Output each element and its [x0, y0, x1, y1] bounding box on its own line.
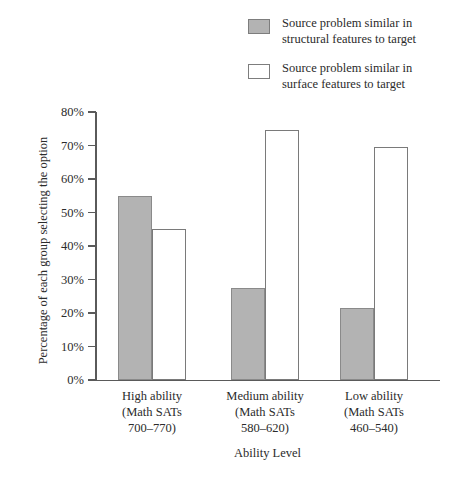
- bar: [152, 229, 186, 380]
- y-axis-tick-label: 10%: [46, 339, 84, 354]
- y-axis-tick-label: 80%: [46, 105, 84, 120]
- x-axis-category-label: Low ability (Math SATs 460–540): [308, 388, 440, 436]
- y-axis-tick: [88, 346, 96, 348]
- bar: [374, 147, 408, 380]
- y-axis-tick: [88, 245, 96, 247]
- y-axis-tick-label: 20%: [46, 306, 84, 321]
- y-axis-tick: [88, 379, 96, 381]
- y-axis-tick: [88, 111, 96, 113]
- bar: [340, 308, 374, 380]
- y-axis-tick: [88, 212, 96, 214]
- bar: [265, 130, 299, 380]
- y-axis-tick-label: 30%: [46, 272, 84, 287]
- y-axis-tick-label: 70%: [46, 138, 84, 153]
- x-axis-title: Ability Level: [95, 446, 440, 461]
- y-axis-tick-label: 40%: [46, 239, 84, 254]
- y-axis-tick: [88, 145, 96, 147]
- y-axis-tick-label: 60%: [46, 172, 84, 187]
- bar-chart-plot: 0%10%20%30%40%50%60%70%80% High ability …: [0, 0, 453, 481]
- bar: [118, 196, 152, 380]
- y-axis-tick: [88, 312, 96, 314]
- y-axis-title: Percentage of each group selecting the o…: [36, 111, 51, 391]
- y-axis-tick: [88, 279, 96, 281]
- y-axis-tick: [88, 178, 96, 180]
- y-axis-tick-label: 50%: [46, 205, 84, 220]
- y-axis-tick-label: 0%: [46, 373, 84, 388]
- bar: [231, 288, 265, 380]
